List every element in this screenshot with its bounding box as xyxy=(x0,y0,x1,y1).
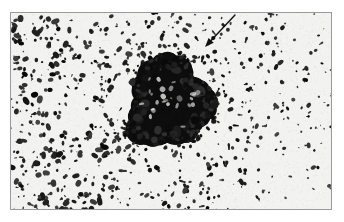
micrograph-plate xyxy=(11,13,331,209)
micrograph-frame xyxy=(10,12,332,210)
dense-particle-cluster xyxy=(11,13,331,209)
figure-root xyxy=(0,0,344,222)
